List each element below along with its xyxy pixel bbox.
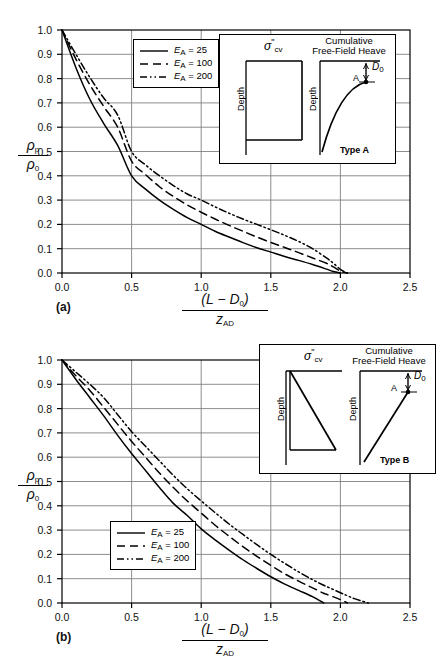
y-tick-label: 0.7 — [18, 97, 52, 109]
legend-label: EA = 200 — [151, 552, 189, 565]
x-tick-label: 0.0 — [45, 281, 79, 293]
x-tick-label: 1.0 — [184, 611, 218, 623]
x-tick-label: 0.5 — [115, 281, 149, 293]
x-tick-label: 2.5 — [393, 281, 427, 293]
legend-key-solid — [139, 46, 169, 56]
legend-label: EA = 25 — [151, 526, 184, 539]
legend-a: EA = 25 EA = 100 EA = 200 — [133, 39, 219, 88]
legend-label: EA = 200 — [174, 70, 212, 83]
x-tick-label: 1.5 — [254, 611, 288, 623]
y-tick-label: 1.0 — [18, 24, 52, 36]
x-tick-label: 1.0 — [184, 281, 218, 293]
legend-b: EA = 25 EA = 100 EA = 200 — [110, 521, 196, 570]
y-tick-label: 0.8 — [18, 73, 52, 85]
y-tick-label: 0.0 — [18, 267, 52, 279]
legend-key-solid — [116, 528, 146, 538]
y-tick-label: 0.9 — [18, 378, 52, 390]
legend-label: EA = 100 — [174, 57, 212, 70]
y-tick-label: 0.3 — [18, 524, 52, 536]
x-tick-label: 2.0 — [323, 611, 357, 623]
legend-row: EA = 100 — [139, 57, 212, 70]
panel-tag-b: (b) — [56, 630, 71, 644]
y-tick-label: 0.7 — [18, 427, 52, 439]
y-tick-label: 0.6 — [18, 451, 52, 463]
y-tick-label: 0.0 — [18, 597, 52, 609]
x-tick-label: 2.0 — [323, 281, 357, 293]
y-tick-label: 0.3 — [18, 194, 52, 206]
x-axis-label-a: (L − D0) zAD — [180, 292, 270, 329]
legend-label: EA = 25 — [174, 44, 207, 57]
legend-label: EA = 100 — [151, 539, 189, 552]
x-tick-label: 0.5 — [115, 611, 149, 623]
legend-row: EA = 25 — [116, 526, 189, 539]
y-tick-label: 0.4 — [18, 500, 52, 512]
panel-tag-a: (a) — [56, 300, 71, 314]
legend-key-dashed — [139, 59, 169, 69]
legend-key-dashed — [116, 541, 146, 551]
y-tick-label: 0.2 — [18, 548, 52, 560]
legend-key-dashdotdot — [139, 72, 169, 82]
legend-row: EA = 25 — [139, 44, 212, 57]
y-tick-label: 0.9 — [18, 48, 52, 60]
legend-row: EA = 200 — [139, 70, 212, 83]
y-tick-label: 0.5 — [18, 146, 52, 158]
inset-svg-a — [220, 35, 395, 163]
inset-diagram-a: σ"cv CumulativeFree-Field Heave Depth De… — [219, 34, 396, 164]
y-tick-label: 0.4 — [18, 170, 52, 182]
x-tick-label: 1.5 — [254, 281, 288, 293]
legend-row: EA = 100 — [116, 539, 189, 552]
legend-row: EA = 200 — [116, 552, 189, 565]
y-tick-label: 0.1 — [18, 243, 52, 255]
chart-panel-b: ρp ρ0 (L − D0) zAD (b) EA = 25 EA = 100 … — [0, 330, 447, 660]
y-tick-label: 0.1 — [18, 573, 52, 585]
inset-diagram-b: σ"cv CumulativeFree-Field Heave Depth De… — [259, 344, 436, 474]
y-tick-label: 0.8 — [18, 403, 52, 415]
x-tick-label: 2.5 — [393, 611, 427, 623]
y-tick-label: 0.2 — [18, 218, 52, 230]
x-axis-label-b: (L − D0) zAD — [180, 622, 270, 659]
inset-svg-b — [260, 345, 435, 473]
y-tick-label: 1.0 — [18, 354, 52, 366]
chart-panel-a: ρp ρ0 (L − D0) zAD (a) EA = 25 EA = 100 … — [0, 0, 447, 330]
y-tick-label: 0.6 — [18, 121, 52, 133]
y-tick-label: 0.5 — [18, 476, 52, 488]
legend-key-dashdotdot — [116, 554, 146, 564]
x-tick-label: 0.0 — [45, 611, 79, 623]
